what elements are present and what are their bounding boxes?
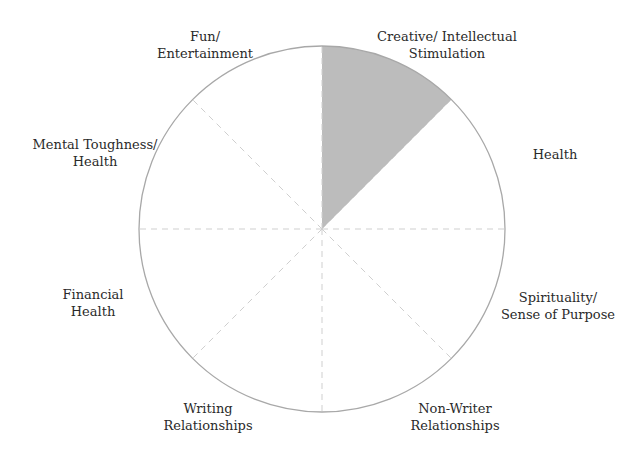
life-wheel-diagram — [0, 0, 626, 460]
label-writing-relationships: Writing Relationships — [148, 400, 268, 434]
label-health: Health — [510, 146, 600, 163]
label-non-writer-relationships: Non-Writer Relationships — [390, 400, 520, 434]
label-creative-intellectual-stimulation: Creative/ Intellectual Stimulation — [362, 28, 532, 62]
label-fun-entertainment: Fun/ Entertainment — [140, 28, 270, 62]
wedge-creative-intellectual-filled — [322, 46, 451, 229]
label-spirituality-sense-of-purpose: Spirituality/ Sense of Purpose — [488, 289, 626, 323]
label-financial-health: Financial Health — [38, 286, 148, 320]
label-mental-toughness-health: Mental Toughness/ Health — [20, 136, 170, 170]
